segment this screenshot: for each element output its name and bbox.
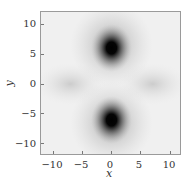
y-tick-label: 0 xyxy=(30,78,36,89)
x-tick-mark xyxy=(170,151,171,154)
y-tick-label: 10 xyxy=(23,18,36,29)
x-tick-mark xyxy=(111,151,112,154)
y-tick-mark xyxy=(41,24,44,25)
x-tick-mark xyxy=(140,151,141,154)
y-axis-label: y xyxy=(3,80,16,86)
y-tick-label: −10 xyxy=(15,138,36,149)
y-tick-label: 5 xyxy=(30,48,36,59)
y-tick-mark xyxy=(41,84,44,85)
x-tick-label: −5 xyxy=(74,159,89,170)
x-tick-label: 10 xyxy=(163,159,176,170)
x-tick-label: −10 xyxy=(41,159,62,170)
y-tick-mark xyxy=(41,54,44,55)
y-tick-mark xyxy=(41,113,44,114)
heatmap-plot-area xyxy=(40,11,181,155)
x-tick-mark xyxy=(53,151,54,154)
y-tick-mark xyxy=(41,143,44,144)
heatmap-image xyxy=(41,12,181,155)
x-axis-label: x xyxy=(106,167,112,180)
y-tick-label: −5 xyxy=(21,108,36,119)
x-tick-mark xyxy=(82,151,83,154)
x-tick-label: 5 xyxy=(136,159,142,170)
